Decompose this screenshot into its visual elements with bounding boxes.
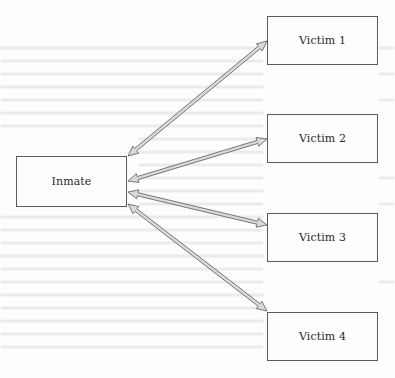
node-label-victim-3: Victim 3 (299, 231, 346, 244)
node-label-victim-2: Victim 2 (299, 132, 346, 145)
diagram-canvas: Inmate Victim 1 Victim 2 Victim 3 Victim… (0, 0, 395, 378)
node-victim-2: Victim 2 (267, 114, 378, 163)
node-label-inmate: Inmate (52, 175, 92, 188)
node-victim-4: Victim 4 (267, 312, 378, 361)
bidirectional-arrow-icon-inmate-victim-1 (128, 41, 267, 156)
node-label-victim-4: Victim 4 (299, 330, 346, 343)
node-label-victim-1: Victim 1 (299, 34, 346, 47)
node-inmate: Inmate (16, 156, 127, 207)
node-victim-3: Victim 3 (267, 213, 378, 262)
node-victim-1: Victim 1 (267, 16, 378, 65)
bidirectional-arrow-icon-inmate-victim-2 (128, 137, 267, 182)
